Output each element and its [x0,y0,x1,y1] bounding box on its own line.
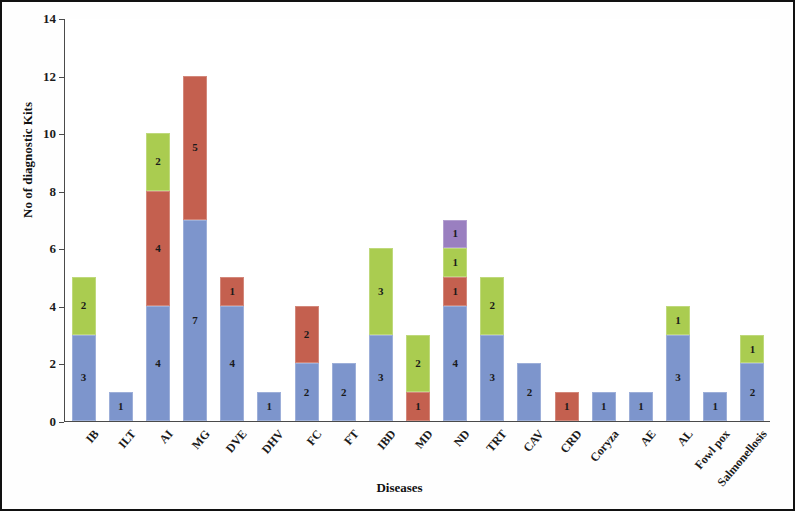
bar-segment[interactable]: 2 [406,335,430,393]
bar-segment[interactable]: 3 [666,335,690,421]
x-axis-tick-label: ILT [115,427,139,452]
bar-segment[interactable]: 3 [480,335,504,421]
bar-column[interactable]: 1 [555,392,579,421]
y-axis-tick-mark [59,307,64,308]
bar-segment[interactable]: 3 [369,248,393,334]
y-axis-tick-mark [59,249,64,250]
bar-segment[interactable]: 2 [295,363,319,421]
bar-segment[interactable]: 2 [332,363,356,421]
y-axis-tick-mark [59,134,64,135]
x-axis-tick-label: CRD [557,427,585,457]
bar-column[interactable]: 22 [295,306,319,421]
bar-column[interactable]: 32 [72,277,96,421]
bar-column[interactable]: 2 [517,363,541,421]
x-axis-tick-label: DHV [259,427,288,457]
bar-column[interactable]: 31 [666,306,690,421]
bar-column[interactable]: 21 [740,335,764,421]
bar-column[interactable]: 1 [629,392,653,421]
bar-column[interactable]: 2 [332,363,356,421]
x-axis-labels: IBILTAIMGDVEDHVFCFTIBDMDNDTRTCAVCRDCoryz… [64,423,770,511]
bar-segment[interactable]: 1 [443,277,467,306]
x-axis-tick-label: CAV [521,427,548,455]
bar-segment[interactable]: 4 [146,191,170,306]
y-axis-tick-mark [59,77,64,78]
bar-segment[interactable]: 5 [183,76,207,220]
x-axis-tick-label-text: ND [451,427,474,450]
bar-column[interactable]: 12 [406,335,430,421]
x-axis-tick-label: MD [412,427,436,452]
x-axis-tick-label-text: AI [156,427,176,447]
x-axis-tick-label-text: IBD [374,427,399,453]
x-axis-tick-label: AE [637,427,659,449]
bar-segment[interactable]: 1 [443,220,467,249]
x-axis-title: Diseases [2,480,795,496]
y-axis-tick-mark [59,192,64,193]
bar-segment[interactable]: 1 [666,306,690,335]
x-axis-tick-label-text: DVE [223,427,251,456]
x-axis-tick-label: DVE [223,427,251,456]
x-axis-tick-label-text: CRD [557,427,585,457]
bar-column[interactable]: 4111 [443,220,467,421]
y-axis-tick-label: 14 [22,11,56,27]
chart-frame: 321442754112223312411132211131121 024681… [0,0,795,511]
bar-column[interactable]: 32 [480,277,504,421]
bar-column[interactable]: 1 [592,392,616,421]
bar-segment[interactable]: 4 [220,306,244,421]
x-axis-tick-label: FT [341,427,362,448]
bar-segment[interactable]: 4 [443,306,467,421]
bar-segment[interactable]: 1 [555,392,579,421]
bar-segment[interactable]: 2 [517,363,541,421]
x-axis-tick-label-text: MG [189,427,214,452]
x-axis-tick-label-text: AE [637,427,659,449]
bar-column[interactable]: 1 [109,392,133,421]
bar-segment[interactable]: 3 [72,335,96,421]
bar-segment[interactable]: 1 [703,392,727,421]
bar-segment[interactable]: 2 [146,133,170,191]
plot-area: 321442754112223312411132211131121 [64,19,770,422]
y-axis-tick-mark [59,364,64,365]
x-axis-tick-label-text: ILT [115,427,139,452]
bar-segment[interactable]: 2 [480,277,504,335]
bar-column[interactable]: 442 [146,133,170,421]
bar-segment[interactable]: 1 [629,392,653,421]
x-axis-tick-label: TRT [484,427,511,455]
y-axis-tick-label: 4 [22,299,56,315]
bar-segment[interactable]: 1 [109,392,133,421]
bar-segment[interactable]: 3 [369,335,393,421]
x-axis-tick-label: AI [156,427,176,447]
y-axis-title: No of diagnostic Kits [20,95,36,225]
bar-segment[interactable]: 1 [443,248,467,277]
y-axis-tick-label: 0 [22,414,56,430]
x-axis-tick-label-text: TRT [484,427,511,455]
x-axis-tick-label-text: DHV [259,427,288,457]
bar-segment[interactable]: 1 [592,392,616,421]
bar-group: 321442754112223312411132211131121 [65,19,770,421]
bar-column[interactable]: 33 [369,248,393,421]
x-axis-tick-label: IBD [374,427,399,453]
y-axis-tick-label: 2 [22,356,56,372]
bar-column[interactable]: 1 [703,392,727,421]
x-axis-tick-label-text: IB [82,427,102,446]
x-axis-tick-label-text: AL [674,427,696,449]
bar-segment[interactable]: 2 [740,363,764,421]
bar-segment[interactable]: 2 [72,277,96,335]
x-axis-tick-label-text: FC [303,427,325,449]
x-axis-tick-label-text: FT [341,427,362,448]
bar-segment[interactable]: 1 [406,392,430,421]
bar-segment[interactable]: 1 [220,277,244,306]
x-axis-tick-label-text: CAV [521,427,548,455]
x-axis-tick-label: ND [451,427,474,450]
y-axis-tick-mark [59,19,64,20]
bar-column[interactable]: 75 [183,76,207,421]
bar-segment[interactable]: 2 [295,306,319,364]
bar-segment[interactable]: 1 [740,335,764,364]
bar-segment[interactable]: 4 [146,306,170,421]
y-axis-tick-label: 12 [22,69,56,85]
x-axis-tick-label: IB [82,427,102,446]
bar-segment[interactable]: 7 [183,220,207,422]
x-axis-tick-label-text: Coryza [587,427,622,465]
bar-column[interactable]: 1 [257,392,281,421]
bar-column[interactable]: 41 [220,277,244,421]
x-axis-tick-label: FC [303,427,325,449]
bar-segment[interactable]: 1 [257,392,281,421]
